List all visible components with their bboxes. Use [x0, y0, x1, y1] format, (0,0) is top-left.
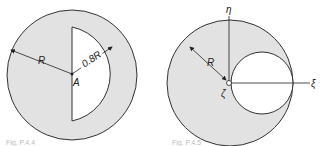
right-label-r: R	[207, 57, 214, 68]
right-label-xi: ξ	[311, 78, 316, 90]
right-label-eta: η	[226, 4, 232, 15]
left-label-r: R	[38, 55, 45, 66]
origin-marker	[227, 81, 232, 86]
right-figure: R η ξ ζ	[167, 4, 316, 146]
caption-left: Fig. P.4.4	[6, 139, 35, 146]
caption-right: Fig. P.4.5	[172, 139, 201, 146]
diagram-canvas: R 0.8R A R η ξ ζ Fig. P.4.4 Fig. P.4.5	[0, 0, 325, 146]
left-label-a: A	[72, 77, 80, 88]
left-figure: R 0.8R A	[7, 10, 137, 140]
